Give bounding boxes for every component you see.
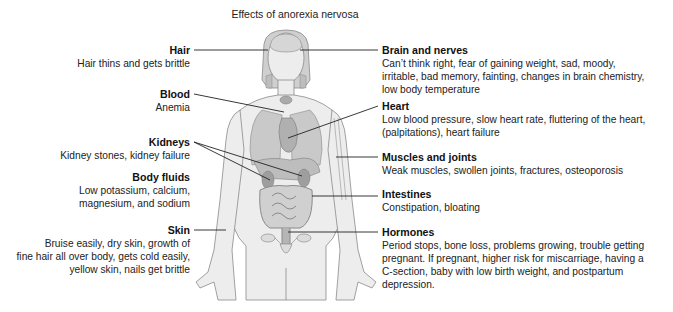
- label-muscles-joints-desc: Weak muscles, swollen joints, fractures,…: [382, 164, 623, 177]
- label-body-fluids-desc-1: Low potassium, calcium,: [79, 184, 190, 197]
- label-body-fluids-heading: Body fluids: [79, 170, 190, 184]
- label-hair-desc: Hair thins and gets brittle: [77, 57, 190, 70]
- label-brain-nerves-heading: Brain and nerves: [382, 43, 644, 57]
- label-skin-desc-3: yellow skin, nails get brittle: [17, 263, 190, 276]
- heart-icon: [279, 118, 297, 152]
- label-hair: Hair Hair thins and gets brittle: [77, 43, 190, 70]
- kidney-right-icon: [298, 169, 310, 187]
- label-kidneys: Kidneys Kidney stones, kidney failure: [60, 135, 190, 162]
- label-skin: Skin Bruise easily, dry skin, growth of …: [17, 223, 190, 276]
- label-kidneys-heading: Kidneys: [60, 135, 190, 149]
- label-blood: Blood Anemia: [155, 87, 190, 114]
- label-intestines: Intestines Constipation, bloating: [382, 187, 480, 214]
- label-heart: Heart Low blood pressure, slow heart rat…: [382, 99, 645, 139]
- label-heart-heading: Heart: [382, 99, 645, 113]
- label-brain-nerves-desc-2: irritable, bad memory, fainting, changes…: [382, 70, 644, 83]
- thyroid-icon: [280, 96, 292, 104]
- label-hair-heading: Hair: [77, 43, 190, 57]
- label-skin-desc-1: Bruise easily, dry skin, growth of: [17, 237, 190, 250]
- label-hormones-heading: Hormones: [382, 225, 644, 239]
- label-intestines-heading: Intestines: [382, 187, 480, 201]
- label-heart-desc-2: (palpitations), heart failure: [382, 126, 645, 139]
- label-hormones-desc-2: pregnant. If pregnant, higher risk for m…: [382, 252, 644, 265]
- label-heart-desc-1: Low blood pressure, slow heart rate, flu…: [382, 113, 645, 126]
- label-hormones-desc-3: C-section, baby with low birth weight, a…: [382, 265, 644, 278]
- label-muscles-joints-heading: Muscles and joints: [382, 150, 623, 164]
- label-blood-heading: Blood: [155, 87, 190, 101]
- label-hormones: Hormones Period stops, bone loss, proble…: [382, 225, 644, 291]
- label-body-fluids-desc-2: magnesium, and sodium: [79, 197, 190, 210]
- label-hormones-desc-1: Period stops, bone loss, problems growin…: [382, 239, 644, 252]
- label-kidneys-desc: Kidney stones, kidney failure: [60, 149, 190, 162]
- label-intestines-desc: Constipation, bloating: [382, 201, 480, 214]
- label-hormones-desc-4: depression.: [382, 278, 644, 291]
- label-body-fluids: Body fluids Low potassium, calcium, magn…: [79, 170, 190, 210]
- label-blood-desc: Anemia: [155, 101, 190, 114]
- label-skin-desc-2: fine hair all over body, gets cold easil…: [17, 250, 190, 263]
- label-muscles-joints: Muscles and joints Weak muscles, swollen…: [382, 150, 623, 177]
- label-brain-nerves: Brain and nerves Can’t think right, fear…: [382, 43, 644, 96]
- label-skin-heading: Skin: [17, 223, 190, 237]
- label-brain-nerves-desc-1: Can’t think right, fear of gaining weigh…: [382, 57, 644, 70]
- label-brain-nerves-desc-3: low body temperature: [382, 83, 644, 96]
